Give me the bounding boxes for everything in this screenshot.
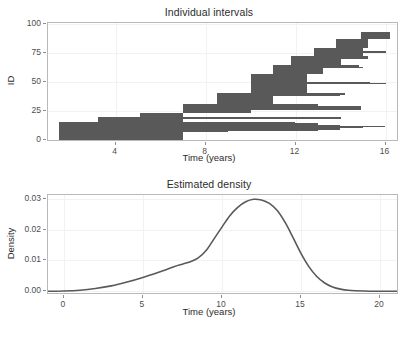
bottom-x-tick	[63, 295, 64, 298]
top-plot-area	[47, 22, 398, 141]
interval-bar	[251, 79, 307, 80]
interval-bar	[314, 48, 364, 49]
top-y-tick	[43, 52, 46, 53]
interval-bar	[336, 45, 368, 46]
interval-bar	[291, 63, 341, 64]
bottom-y-tick	[43, 229, 46, 230]
top-y-tick	[43, 139, 46, 140]
top-x-tick	[385, 142, 386, 145]
top-y-tick	[43, 81, 46, 82]
bottom-x-tick	[142, 295, 143, 298]
bottom-x-tick	[379, 295, 380, 298]
top-x-tick	[115, 142, 116, 145]
interval-bar	[291, 58, 341, 59]
interval-bar	[217, 98, 273, 99]
interval-bar	[183, 106, 361, 107]
bottom-y-tick	[43, 259, 46, 260]
interval-bar	[273, 69, 323, 70]
interval-bar	[314, 53, 364, 54]
interval-bar	[273, 65, 359, 66]
top-gridline-h	[48, 24, 397, 25]
bottom-y-tick-label: 0.03	[6, 193, 41, 203]
interval-bar	[336, 41, 368, 42]
panel-estimated-density: Estimated density 0.000.010.020.03 05101…	[0, 172, 418, 345]
interval-bar	[251, 74, 307, 75]
interval-bar	[59, 132, 183, 133]
interval-bar	[217, 96, 273, 97]
interval-bar	[251, 84, 307, 85]
interval-bar	[251, 83, 386, 84]
top-x-tick	[295, 142, 296, 145]
interval-bar	[59, 122, 295, 123]
interval-bar	[291, 60, 341, 61]
interval-bar	[251, 86, 307, 87]
top-y-tick-label: 75	[12, 47, 41, 57]
density-curve	[48, 199, 398, 291]
panel-individual-intervals: Individual intervals 0255075100 481216 T…	[0, 0, 418, 172]
interval-bar	[59, 134, 183, 135]
top-y-tick-label: 25	[12, 105, 41, 115]
top-x-tick	[205, 142, 206, 145]
interval-bar	[291, 56, 368, 57]
top-gridline-h	[48, 140, 397, 141]
top-y-tick-label: 0	[12, 134, 41, 144]
interval-bar	[361, 36, 390, 37]
top-y-tick	[43, 110, 46, 111]
interval-bar	[59, 137, 183, 138]
interval-bar	[251, 90, 307, 91]
density-curve-svg	[48, 195, 398, 294]
interval-bar	[140, 113, 183, 114]
interval-bar	[251, 89, 307, 90]
top-y-tick-label: 100	[12, 18, 41, 28]
interval-bar	[291, 62, 341, 63]
interval-bar	[183, 110, 251, 111]
top-y-tick	[43, 23, 46, 24]
interval-bar	[59, 127, 363, 128]
top-x-axis-title: Time (years)	[0, 152, 418, 163]
interval-bar	[361, 32, 390, 33]
interval-bar	[361, 33, 390, 34]
bottom-y-tick	[43, 290, 46, 291]
bottom-x-axis-title: Time (years)	[0, 306, 418, 317]
top-y-axis-title: ID	[5, 58, 16, 104]
bottom-y-axis-title: Density	[5, 218, 16, 270]
interval-bar	[98, 117, 341, 118]
interval-bar	[314, 54, 364, 55]
interval-bar	[314, 50, 364, 51]
bottom-x-tick	[221, 295, 222, 298]
interval-bar	[251, 92, 307, 93]
interval-bar	[59, 130, 228, 131]
interval-bar	[59, 125, 340, 126]
interval-bar	[217, 94, 341, 95]
figure-root: Individual intervals 0255075100 481216 T…	[0, 0, 418, 345]
interval-bar	[217, 101, 273, 102]
bottom-y-tick-label: 0.00	[6, 285, 41, 295]
top-y-tick-label: 50	[12, 76, 41, 86]
interval-bar	[251, 81, 307, 82]
interval-bar	[140, 115, 183, 116]
bottom-chart-title: Estimated density	[0, 178, 418, 190]
interval-bar	[251, 77, 307, 78]
interval-bar	[98, 119, 184, 120]
bottom-x-tick	[300, 295, 301, 298]
top-chart-title: Individual intervals	[0, 6, 418, 18]
bottom-plot-area	[47, 194, 398, 294]
interval-bar	[59, 128, 340, 129]
bottom-y-tick	[43, 198, 46, 199]
interval-bar	[98, 121, 184, 122]
interval-bar	[336, 47, 368, 48]
